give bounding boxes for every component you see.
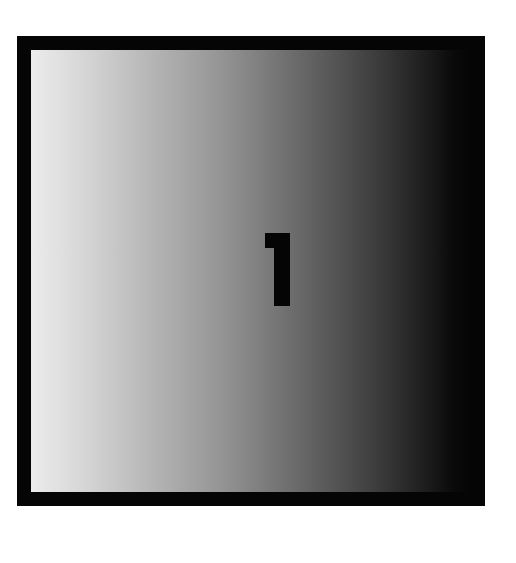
number-one-glyph: 1 xyxy=(264,232,291,307)
gradient-panel: 1 xyxy=(31,50,471,492)
number-tile-frame: 1 xyxy=(17,36,485,506)
tile-label: 1 xyxy=(264,307,265,308)
digit-one-icon xyxy=(264,232,291,307)
